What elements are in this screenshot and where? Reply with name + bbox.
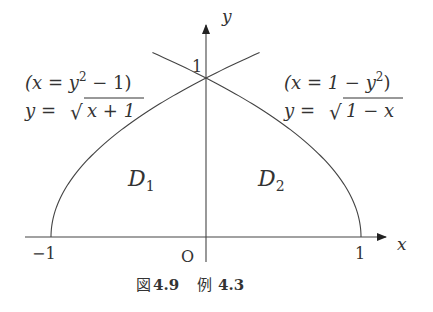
- region-d1-sub: 1: [146, 178, 155, 194]
- svg-text:y =: y =: [24, 100, 56, 121]
- right-curve-equation: (x = 1 − y2) y = √ 1 − x: [283, 70, 403, 124]
- x-tick-label-1: 1: [355, 244, 365, 263]
- curve-left-extension: [206, 53, 260, 78]
- svg-text:(x = y2 − 1): (x = y2 − 1): [25, 70, 132, 93]
- x-tick-label-neg1: −1: [32, 244, 56, 263]
- caption-example-prefix: 例: [197, 276, 212, 294]
- region-d2-label: D2: [257, 166, 285, 194]
- y-tick-label-1: 1: [192, 57, 202, 76]
- caption-example-number: 4.3: [218, 276, 244, 294]
- x-axis-label: x: [397, 234, 407, 254]
- region-d1-label: D1: [127, 166, 155, 194]
- right-implicit-lhs: (x = 1 − y: [284, 72, 377, 93]
- region-d1-main: D: [127, 166, 146, 191]
- diagram-canvas: y x O −1 1 1 (x = y2 − 1) y = √ x + 1 (x…: [0, 0, 433, 312]
- caption-figure-number: 4.9: [153, 276, 179, 294]
- left-implicit-exp: 2: [79, 70, 87, 84]
- right-radicand: 1 − x: [346, 100, 394, 121]
- left-implicit-rhs: − 1): [87, 72, 132, 93]
- region-d2-main: D: [257, 166, 276, 191]
- right-explicit-lhs: y =: [283, 100, 315, 121]
- left-radicand: x + 1: [87, 100, 135, 121]
- left-curve-equation: (x = y2 − 1) y = √ x + 1: [24, 70, 144, 124]
- left-sqrt-sign: √: [70, 100, 83, 124]
- origin-label: O: [181, 247, 194, 266]
- y-axis-label: y: [221, 6, 232, 26]
- figure-caption: 図4.9例4.3: [136, 276, 244, 294]
- left-implicit-lhs: (x = y: [25, 72, 80, 93]
- right-implicit-rhs: ): [384, 72, 391, 93]
- right-implicit-exp: 2: [376, 70, 384, 84]
- caption-figure-prefix: 図: [136, 276, 151, 294]
- region-d2-sub: 2: [276, 178, 285, 194]
- right-sqrt-sign: √: [329, 100, 342, 124]
- svg-text:(x = 1 − y2): (x = 1 − y2): [284, 70, 391, 93]
- svg-text:y =: y =: [283, 100, 315, 121]
- left-explicit-lhs: y =: [24, 100, 56, 121]
